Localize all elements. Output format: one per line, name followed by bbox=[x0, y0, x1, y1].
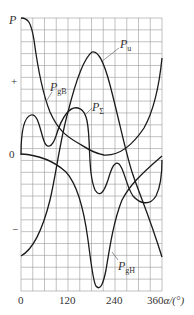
label-p-sigma: PΣ bbox=[91, 100, 104, 116]
leader-p-sigma bbox=[85, 108, 92, 115]
label-p-u: Pu bbox=[119, 37, 131, 53]
label-p-gb: PgB bbox=[49, 80, 67, 96]
y-tick-zero: 0 bbox=[9, 148, 15, 160]
x-tick-120: 120 bbox=[59, 294, 76, 306]
y-axis-label: P bbox=[8, 13, 17, 27]
y-tick-minus: − bbox=[12, 223, 18, 235]
y-tick-plus: + bbox=[11, 75, 17, 87]
label-p-gh: PgH bbox=[117, 259, 135, 275]
chart: PgB Pu PΣ PgH P + 0 − 0 120 240 360α/(°) bbox=[0, 0, 194, 315]
x-tick-240: 240 bbox=[106, 294, 123, 306]
x-tick-0: 0 bbox=[18, 294, 24, 306]
x-tick-360: 360α/(°) bbox=[147, 294, 184, 307]
grid bbox=[21, 18, 162, 291]
leader-p-u bbox=[101, 48, 119, 62]
